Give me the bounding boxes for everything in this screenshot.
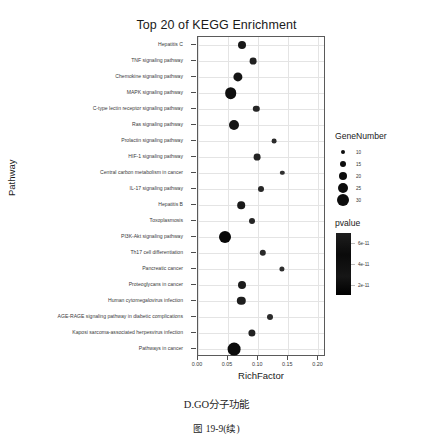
gridline-horizontal bbox=[198, 173, 324, 174]
gene-number-legend-row: 30 bbox=[335, 194, 387, 206]
scatter-point bbox=[249, 58, 256, 65]
scatter-point bbox=[238, 41, 246, 49]
y-axis-tick-label: Central carbon metabolism in cancer bbox=[100, 169, 183, 175]
gridline-horizontal bbox=[198, 109, 324, 110]
gridline-horizontal bbox=[198, 237, 324, 238]
scatter-point bbox=[237, 297, 245, 305]
y-axis-tick-mark bbox=[191, 44, 196, 45]
scatter-point bbox=[229, 120, 239, 130]
gene-number-legend-dot bbox=[335, 183, 351, 193]
x-axis-tick-mark bbox=[287, 356, 288, 360]
gene-number-legend: GeneNumber 1015202530 bbox=[335, 131, 387, 206]
gridline-horizontal bbox=[198, 77, 324, 78]
gridline-horizontal bbox=[198, 93, 324, 94]
gridline-horizontal bbox=[198, 141, 324, 142]
pvalue-colorbar-tick-mark bbox=[351, 264, 355, 265]
y-axis-tick-mark bbox=[191, 124, 196, 125]
scatter-point bbox=[260, 250, 266, 256]
gridline-horizontal bbox=[198, 269, 324, 270]
y-axis-tick-label: AGE-RAGE signaling pathway in diabetic c… bbox=[58, 313, 183, 319]
scatter-point bbox=[233, 72, 242, 81]
y-axis-tick-label: PI3K-Akt signaling pathway bbox=[121, 233, 183, 239]
scatter-point bbox=[267, 314, 273, 320]
plot-panel bbox=[197, 36, 325, 356]
pvalue-colorbar-tick-mark bbox=[351, 285, 355, 286]
gridline-horizontal bbox=[198, 301, 324, 302]
x-axis-tick-label: 0.00 bbox=[192, 361, 203, 367]
gridline-vertical bbox=[258, 37, 259, 355]
scatter-point bbox=[225, 87, 237, 99]
gene-number-legend-title: GeneNumber bbox=[335, 131, 387, 141]
y-axis-tick-mark bbox=[191, 204, 196, 205]
y-axis-tick-mark bbox=[191, 332, 196, 333]
x-axis-tick-mark bbox=[197, 356, 198, 360]
pvalue-colorbar-tick-mark bbox=[351, 243, 355, 244]
x-axis-tick-label: 0.20 bbox=[312, 361, 323, 367]
y-axis-tick-label: Pathways in cancer bbox=[139, 345, 183, 351]
y-axis-tick-label: Ras signaling pathway bbox=[132, 121, 183, 127]
scatter-point bbox=[271, 139, 276, 144]
y-axis-tick-mark bbox=[191, 316, 196, 317]
y-axis-tick-mark bbox=[191, 188, 196, 189]
scatter-point bbox=[238, 201, 246, 209]
gene-number-legend-row: 25 bbox=[335, 182, 387, 194]
y-axis-tick-label: Th17 cell differentiation bbox=[130, 249, 183, 255]
gridline-horizontal bbox=[198, 317, 324, 318]
y-axis-tick-mark bbox=[191, 76, 196, 77]
y-axis-tick-labels: Hepatitis CTNF signaling pathwayChemokin… bbox=[0, 36, 191, 356]
pvalue-legend: pvalue 6e-114e-112e-11 bbox=[335, 218, 391, 295]
scatter-point bbox=[249, 329, 256, 336]
y-axis-tick-mark bbox=[191, 156, 196, 157]
y-axis-tick-label: C-type lectin receptor signaling pathway bbox=[93, 105, 183, 111]
x-axis-tick-label: 0.05 bbox=[222, 361, 233, 367]
scatter-point bbox=[254, 154, 261, 161]
gridline-horizontal bbox=[198, 333, 324, 334]
scatter-point bbox=[280, 171, 284, 175]
y-axis-tick-mark bbox=[191, 108, 196, 109]
gene-number-legend-dot bbox=[335, 172, 351, 181]
scatter-point bbox=[228, 343, 241, 356]
gene-number-legend-row: 20 bbox=[335, 170, 387, 182]
gridline-vertical bbox=[228, 37, 229, 355]
x-axis-tick-label: 0.15 bbox=[282, 361, 293, 367]
pvalue-legend-title: pvalue bbox=[335, 218, 391, 228]
y-axis-tick-label: MAPK signaling pathway bbox=[127, 89, 183, 95]
gridline-vertical bbox=[198, 37, 199, 355]
pvalue-colorbar-ticks: 6e-114e-112e-11 bbox=[351, 233, 391, 295]
gridline-horizontal bbox=[198, 285, 324, 286]
y-axis-tick-label: Hepatitis C bbox=[158, 41, 183, 47]
pvalue-colorbar-tick-label: 2e-11 bbox=[358, 283, 369, 288]
pvalue-colorbar-tick-label: 6e-11 bbox=[358, 240, 369, 245]
scatter-point bbox=[279, 266, 284, 271]
figure-page: Top 20 of KEGG Enrichment Pathway Hepati… bbox=[0, 0, 433, 443]
y-axis-tick-label: HIF-1 signaling pathway bbox=[128, 153, 183, 159]
scatter-point bbox=[258, 186, 264, 192]
figure-number-caption: 图 19-9(续) bbox=[0, 421, 433, 435]
x-axis-tick-mark bbox=[227, 356, 228, 360]
gridline-horizontal bbox=[198, 61, 324, 62]
gridline-horizontal bbox=[198, 45, 324, 46]
gene-number-legend-row: 15 bbox=[335, 158, 387, 170]
gene-number-legend-label: 25 bbox=[356, 186, 361, 191]
gene-number-legend-label: 15 bbox=[356, 162, 361, 167]
gridline-vertical bbox=[288, 37, 289, 355]
gridline-horizontal bbox=[198, 125, 324, 126]
y-axis-tick-label: Chemokine signaling pathway bbox=[115, 73, 183, 79]
gene-number-legend-label: 10 bbox=[356, 150, 361, 155]
y-axis-tick-mark bbox=[191, 252, 196, 253]
x-axis-tick-label: 0.10 bbox=[252, 361, 263, 367]
y-axis-tick-mark bbox=[191, 236, 196, 237]
y-axis-tick-mark bbox=[191, 348, 196, 349]
x-axis-title: RichFactor bbox=[197, 370, 325, 381]
y-axis-tick-mark bbox=[191, 140, 196, 141]
pvalue-colorbar bbox=[336, 233, 351, 295]
y-axis-tick-mark bbox=[191, 220, 196, 221]
gridline-vertical bbox=[318, 37, 319, 355]
y-axis-tick-label: IL-17 signaling pathway bbox=[129, 185, 183, 191]
pvalue-colorbar-tick-label: 4e-11 bbox=[358, 262, 369, 267]
gridline-horizontal bbox=[198, 205, 324, 206]
y-axis-tick-label: Toxoplasmosis bbox=[150, 217, 183, 223]
y-axis-tick-mark bbox=[191, 284, 196, 285]
y-axis-tick-mark bbox=[191, 92, 196, 93]
scatter-point bbox=[219, 231, 231, 243]
